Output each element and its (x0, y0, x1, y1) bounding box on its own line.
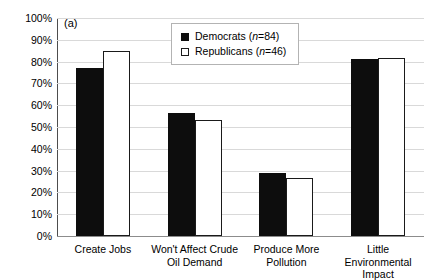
y-axis-tick-label: 10% (6, 209, 52, 220)
x-axis-category-label: Won't Affect Crude Oil Demand (149, 243, 241, 268)
y-axis-tick-label: 100% (6, 13, 52, 24)
bar (168, 113, 195, 236)
x-axis-category-label: Little Environmental Impact (332, 243, 424, 280)
legend-entry-democrats: Democrats (n=84) (181, 29, 286, 44)
y-axis-tick-label: 0% (6, 231, 52, 242)
y-axis-tick-label: 80% (6, 57, 52, 68)
bar-chart-figure: 100%90%80%70%60%50%40%30%20%10%0% (a) De… (0, 0, 424, 280)
y-axis-tick-label: 70% (6, 78, 52, 89)
bar-group (332, 18, 424, 236)
bar-group (57, 18, 149, 236)
y-axis-tick-label: 40% (6, 144, 52, 155)
y-axis-tick-label: 30% (6, 166, 52, 177)
legend-label-republicans: Republicans (n=46) (195, 46, 286, 57)
bar (76, 68, 103, 236)
y-axis-tick-label: 60% (6, 100, 52, 111)
y-axis-tick-labels: 100%90%80%70%60%50%40%30%20%10%0% (0, 0, 52, 280)
gridline (57, 236, 424, 237)
y-axis-tick-label: 20% (6, 187, 52, 198)
legend: Democrats (n=84) Republicans (n=46) (171, 23, 299, 65)
bar (103, 51, 130, 236)
x-axis-category-label: Produce More Pollution (241, 243, 333, 268)
legend-swatch-democrats-icon (181, 33, 189, 41)
legend-swatch-republicans-icon (181, 48, 189, 56)
y-axis-tick-label: 50% (6, 122, 52, 133)
bar (351, 59, 378, 236)
x-axis-category-label: Create Jobs (57, 243, 149, 256)
bar (195, 120, 222, 236)
bar (259, 173, 286, 236)
y-axis-tick-label: 90% (6, 35, 52, 46)
bar (286, 178, 313, 236)
legend-label-democrats: Democrats (n=84) (195, 31, 279, 42)
bar (378, 58, 405, 236)
legend-entry-republicans: Republicans (n=46) (181, 44, 286, 59)
